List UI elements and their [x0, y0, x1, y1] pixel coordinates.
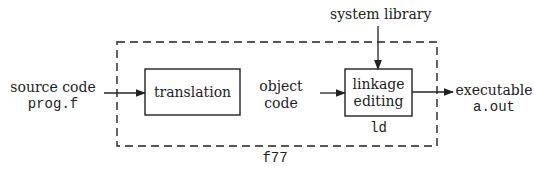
linker-tool-label: ld — [345, 120, 412, 137]
linkage-label-line1: linkage — [345, 76, 412, 93]
executable-label: executable — [455, 82, 533, 99]
source-code-label: source code — [8, 79, 98, 96]
system-library-label: system library — [330, 6, 426, 23]
compiler-label: f77 — [255, 150, 295, 167]
translation-label: translation — [145, 84, 240, 101]
object-code-label-line2: code — [246, 95, 316, 112]
source-file-label: prog.f — [8, 96, 98, 113]
object-code-label-line1: object — [246, 78, 316, 95]
executable-file-label: a.out — [455, 99, 533, 116]
linkage-label-line2: editing — [345, 93, 412, 110]
